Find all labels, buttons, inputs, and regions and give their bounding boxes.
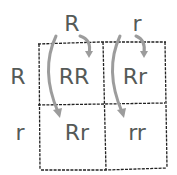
row-allele-1: R: [6, 66, 30, 88]
cell-Rr-top: Rr: [110, 66, 160, 88]
grid-lines: [38, 42, 167, 170]
column-allele-1: R: [60, 13, 84, 35]
cell-RR: RR: [48, 66, 100, 88]
arrowhead-icon: [53, 108, 62, 118]
arrowhead-icon: [85, 51, 93, 58]
cell-rr: rr: [112, 122, 162, 144]
row-allele-2: r: [8, 122, 32, 144]
arrow-col1-right-icon: [80, 36, 90, 53]
arrow-col2-right-icon: [136, 36, 144, 53]
arrowhead-icon: [117, 108, 126, 118]
cell-Rr-bottom: Rr: [52, 122, 102, 144]
column-allele-2: r: [125, 13, 149, 35]
arrowhead-icon: [140, 51, 148, 58]
